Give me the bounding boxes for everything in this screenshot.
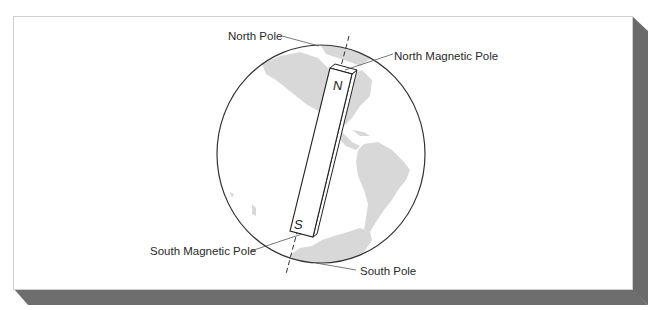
magnet-north-letter: N xyxy=(333,78,343,93)
magnet-south-letter: S xyxy=(294,217,303,232)
north-magnetic-pole-label: North Magnetic Pole xyxy=(394,50,498,62)
south-magnetic-pole-label: South Magnetic Pole xyxy=(150,245,256,257)
south-pole-label: South Pole xyxy=(360,265,416,277)
magnetic-field-diagram: N S North Pole North Magnetic Pole South… xyxy=(0,0,652,310)
north-pole-label: North Pole xyxy=(228,30,282,42)
